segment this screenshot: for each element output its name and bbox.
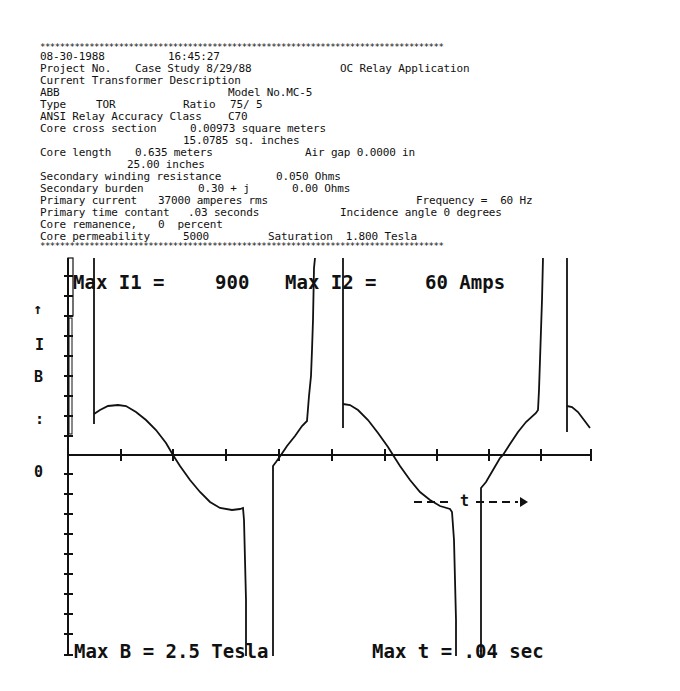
max-i1-value: 900 [215,271,249,293]
t-arrow-label: t [458,492,471,510]
y-axis-label-i: I [35,336,44,354]
max-i1-label: Max I1 = [73,271,165,293]
y-axis-zero: 0 [34,463,43,481]
max-i2-label: Max I2 = [285,271,377,293]
waveform-plot [0,0,680,691]
y-axis-arrow-icon: ↑ [33,300,42,318]
max-t-label: Max t = .04 sec [372,640,544,662]
t-arrow-head [520,497,528,507]
y-axis-dots: : [35,410,44,428]
flux-current-waveform [94,258,590,656]
y-axis-label-b: B [34,368,43,386]
max-i2-value: 60 Amps [425,271,505,293]
max-b-label: Max B = 2.5 Tesla [74,640,268,662]
